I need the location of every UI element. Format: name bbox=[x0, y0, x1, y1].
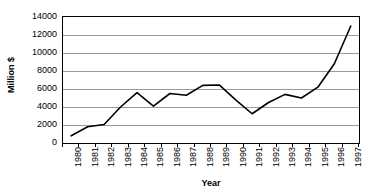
x-tick-label-1996: 1996 bbox=[337, 147, 346, 167]
x-tick-label-1983: 1983 bbox=[124, 147, 133, 167]
x-tick-label-1982: 1982 bbox=[107, 147, 116, 167]
x-tick-label-1980: 1980 bbox=[74, 147, 83, 167]
x-tick-label-1991: 1991 bbox=[255, 147, 264, 167]
y-tick-label-4000: 4000 bbox=[37, 102, 57, 111]
y-tick-label-8000: 8000 bbox=[37, 66, 57, 75]
x-tick-label-1988: 1988 bbox=[206, 147, 215, 167]
y-tick-label-12000: 12000 bbox=[32, 30, 57, 39]
series-polyline bbox=[71, 26, 351, 136]
y-tick-label-6000: 6000 bbox=[37, 84, 57, 93]
y-axis-title-label: Million $ bbox=[6, 57, 16, 93]
series-line-million-dollars bbox=[63, 17, 359, 143]
x-tick-label-1993: 1993 bbox=[288, 147, 297, 167]
x-tick-label-1994: 1994 bbox=[304, 147, 313, 167]
y-tick-label-0: 0 bbox=[52, 138, 57, 147]
x-axis-tick-labels: 1980198119821983198419851986198719881989… bbox=[62, 147, 360, 177]
line-chart-figure: Million $ 020004000600080001000012000140… bbox=[0, 0, 381, 193]
plot-area bbox=[62, 16, 360, 144]
x-tick-label-1992: 1992 bbox=[272, 147, 281, 167]
y-axis-tick-labels: 02000400060008000100001200014000 bbox=[20, 10, 60, 144]
x-tick-label-1990: 1990 bbox=[239, 147, 248, 167]
y-tick-label-2000: 2000 bbox=[37, 120, 57, 129]
x-tick-label-1986: 1986 bbox=[173, 147, 182, 167]
x-tick-label-1985: 1985 bbox=[156, 147, 165, 167]
x-tick-label-1989: 1989 bbox=[222, 147, 231, 167]
y-tick-label-14000: 14000 bbox=[32, 12, 57, 21]
x-axis-title: Year bbox=[62, 178, 360, 188]
x-tick-label-1987: 1987 bbox=[189, 147, 198, 167]
y-tick-label-10000: 10000 bbox=[32, 48, 57, 57]
x-tick-label-1981: 1981 bbox=[91, 147, 100, 167]
x-tick-label-1995: 1995 bbox=[321, 147, 330, 167]
x-tick-label-1997: 1997 bbox=[354, 147, 363, 167]
y-axis-title: Million $ bbox=[0, 0, 22, 150]
x-tick-label-1984: 1984 bbox=[140, 147, 149, 167]
